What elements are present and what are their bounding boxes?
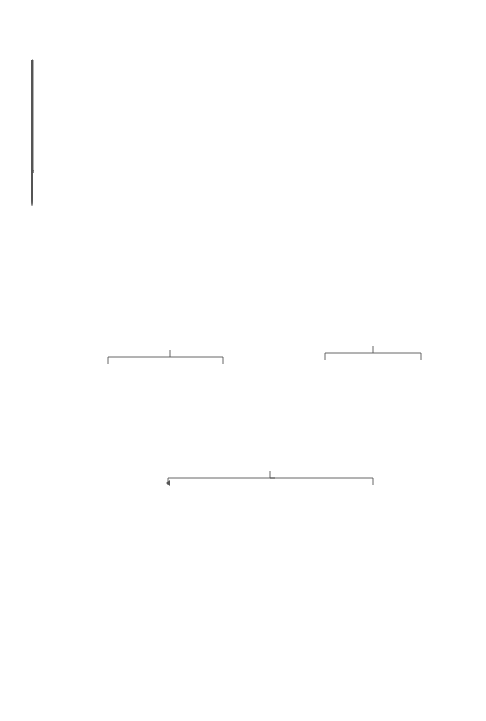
metabolism-figure	[0, 0, 486, 721]
pathway-lines	[0, 0, 486, 721]
